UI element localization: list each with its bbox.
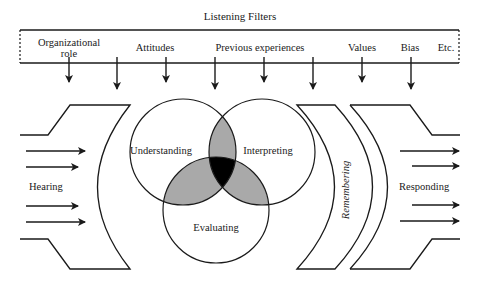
stage-interpreting: Interpreting (243, 145, 293, 156)
stage-remembering: Remembering (340, 161, 351, 220)
filter-attitudes: Attitudes (136, 42, 175, 53)
filter-values: Values (348, 42, 376, 53)
stage-hearing: Hearing (29, 181, 64, 192)
remembering-band (297, 105, 373, 269)
stage-evaluating: Evaluating (193, 222, 239, 233)
filter-bias: Bias (401, 42, 420, 53)
filter-arrows (69, 57, 411, 89)
filter-etc: Etc. (438, 42, 455, 53)
stage-understanding: Understanding (130, 145, 193, 156)
listening-process-diagram: Listening Filters Organizational role At… (0, 0, 479, 283)
filter-previous-experiences: Previous experiences (216, 42, 305, 53)
stage-responding: Responding (399, 181, 450, 192)
diagram-title: Listening Filters (204, 10, 276, 22)
venn-overlaps (163, 99, 315, 263)
filter-organizational-role: Organizational (38, 37, 100, 48)
